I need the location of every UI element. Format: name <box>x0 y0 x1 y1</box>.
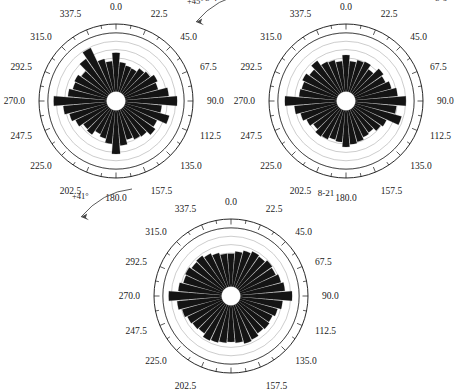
angle-axis-label: 315.0 <box>260 32 282 42</box>
angle-axis-label: 270.0 <box>4 96 26 106</box>
rotation-angle-label: +41° <box>72 191 89 201</box>
rose-plot-svg: 0.022.545.067.590.0112.5135.0157.5180.02… <box>0 0 230 194</box>
specimen-id-label: 8-4 <box>205 0 217 3</box>
angle-axis-label: 90.0 <box>437 96 454 106</box>
angle-axis-label: 22.5 <box>151 9 168 19</box>
angle-axis-label: 292.5 <box>11 62 33 72</box>
angle-axis-label: 157.5 <box>266 381 288 389</box>
angle-axis-label: 135.0 <box>410 161 432 171</box>
angle-axis-label: 67.5 <box>430 62 447 72</box>
angle-axis-label: 0.0 <box>225 197 237 207</box>
angle-axis-label: 247.5 <box>126 326 148 336</box>
angle-axis-label: 337.5 <box>290 9 312 19</box>
angle-axis-label: 225.0 <box>260 161 282 171</box>
angle-axis-label: 337.5 <box>60 9 82 19</box>
angle-axis-label: 22.5 <box>266 204 283 214</box>
specimen-id-label: 8-6 <box>435 0 447 3</box>
angle-axis-label: 67.5 <box>200 62 217 72</box>
angle-axis-label: 247.5 <box>241 131 263 141</box>
angle-axis-label: 315.0 <box>30 32 52 42</box>
angle-axis-label: 135.0 <box>295 356 317 366</box>
angle-axis-label: 0.0 <box>340 2 352 12</box>
angle-axis-label: 270.0 <box>234 96 256 106</box>
angle-axis-label: 202.5 <box>175 381 197 389</box>
rose-plot-svg: 0.022.545.067.590.0112.5135.0157.5180.02… <box>230 0 460 194</box>
angle-axis-label: 157.5 <box>381 186 403 196</box>
rose-diagram-panel-8-21: 0.022.545.067.590.0112.5135.0157.5180.02… <box>115 195 345 389</box>
rose-diagram-panel-8-4: 0.022.545.067.590.0112.5135.0157.5180.02… <box>0 0 230 194</box>
rose-diagram-panel-8-6: 0.022.545.067.590.0112.5135.0157.5180.02… <box>230 0 460 194</box>
specimen-id-label: 8-21 <box>318 188 335 198</box>
angle-axis-label: 337.5 <box>175 204 197 214</box>
rose-plot-svg: 0.022.545.067.590.0112.5135.0157.5180.02… <box>115 195 345 389</box>
angle-axis-label: 315.0 <box>145 227 167 237</box>
angle-axis-label: 247.5 <box>11 131 33 141</box>
angle-axis-label: 292.5 <box>241 62 263 72</box>
angle-axis-label: 225.0 <box>145 356 167 366</box>
angle-axis-label: 112.5 <box>315 326 336 336</box>
angle-axis-label: 135.0 <box>180 161 202 171</box>
rotation-angle-label: +45° <box>187 0 204 6</box>
angle-axis-label: 90.0 <box>207 96 224 106</box>
rotation-arrow-shaft <box>0 0 17 22</box>
angle-axis-label: 45.0 <box>180 32 197 42</box>
rotation-arrow-head <box>81 214 89 221</box>
angle-axis-label: 22.5 <box>381 9 398 19</box>
angle-axis-label: 225.0 <box>30 161 52 171</box>
rotation-annotation: +179° <box>0 0 17 25</box>
angle-axis-label: 90.0 <box>322 291 339 301</box>
angle-axis-label: 112.5 <box>430 131 451 141</box>
angle-axis-label: 67.5 <box>315 257 332 267</box>
angle-axis-label: 270.0 <box>119 291 141 301</box>
angle-axis-label: 292.5 <box>126 257 148 267</box>
angle-axis-label: 45.0 <box>295 227 312 237</box>
angle-axis-label: 112.5 <box>200 131 221 141</box>
angle-axis-label: 0.0 <box>110 2 122 12</box>
angle-axis-label: 45.0 <box>410 32 427 42</box>
